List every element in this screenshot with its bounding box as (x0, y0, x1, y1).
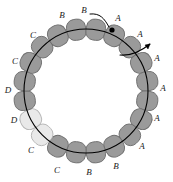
label-B-bottom-right: B (113, 162, 119, 171)
label-C-left: C (12, 57, 18, 66)
label-B-top-left: B (59, 11, 65, 20)
label-D-left: D (5, 86, 12, 95)
label-C-bottom-left: C (28, 146, 34, 155)
label-C-upper-left: C (30, 31, 36, 40)
label-A-right-3: A (154, 114, 160, 123)
label-B-callout: B (81, 6, 87, 15)
label-A-right-1: A (154, 54, 160, 63)
black-dot-marker (109, 27, 114, 32)
label-A-right-2: A (160, 84, 166, 93)
label-D-lower-left: D (11, 116, 18, 125)
label-C-bottom: C (54, 166, 60, 175)
bead-layer (13, 18, 159, 164)
label-A-lower-right: A (139, 142, 145, 151)
label-A-upper-right: A (137, 30, 143, 39)
diagram-canvas (0, 0, 173, 182)
label-B-bottom: B (86, 168, 92, 177)
label-A-top-right: A (115, 14, 121, 23)
ring-diagram: BBAAAAAABBCCDDCC (0, 0, 173, 182)
